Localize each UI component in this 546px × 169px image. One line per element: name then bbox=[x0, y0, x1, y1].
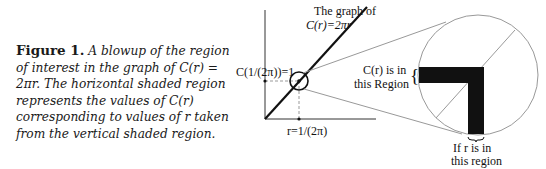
y-marker-label: C(1/(2π))=1 bbox=[236, 66, 294, 79]
y-region-label-line1: C(r) is in bbox=[363, 64, 406, 77]
vertical-shaded-region bbox=[468, 67, 484, 134]
x-tick-dot bbox=[297, 117, 300, 120]
point-dot bbox=[297, 79, 301, 83]
x-marker-label: r=1/(2π) bbox=[287, 125, 327, 138]
y-region-label-line2: this Region bbox=[354, 78, 409, 91]
x-region-label-line2: this region bbox=[451, 155, 502, 168]
y-tick-dot bbox=[263, 79, 266, 82]
figure-diagram: The graph of C(r)=2πr C(1/(2π))=1 r=1/(2… bbox=[0, 0, 546, 169]
graph-title-line2: C(r)=2πr bbox=[306, 19, 351, 32]
y-region-brace: { bbox=[410, 66, 419, 86]
graph-title-line1: The graph of bbox=[314, 5, 376, 18]
